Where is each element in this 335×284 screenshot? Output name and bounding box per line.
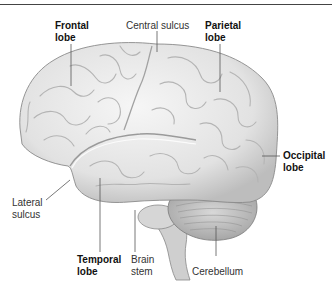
- label-central-sulcus: Central sulcus: [126, 20, 189, 32]
- label-cerebellum-text: Cerebellum: [192, 266, 243, 277]
- brain-illustration: [0, 0, 335, 284]
- label-frontal-lobe-line1: Frontal: [55, 20, 89, 32]
- label-temporal-lobe-line1: Temporal: [77, 254, 121, 266]
- label-cerebellum: Cerebellum: [192, 266, 243, 278]
- label-temporal-lobe: Temporal lobe: [77, 254, 121, 278]
- label-frontal-lobe-line2: lobe: [55, 32, 89, 44]
- label-occipital-lobe: Occipital lobe: [283, 150, 325, 174]
- label-lateral-sulcus-line2: sulcus: [12, 209, 43, 221]
- label-lateral-sulcus: Lateral sulcus: [12, 197, 43, 221]
- label-brain-stem-line2: stem: [131, 266, 154, 278]
- leader-lateral-sulcus: [46, 180, 70, 200]
- label-occipital-lobe-line2: lobe: [283, 162, 325, 174]
- label-parietal-lobe-line1: Parietal: [205, 20, 241, 32]
- label-central-sulcus-text: Central sulcus: [126, 20, 189, 31]
- label-lateral-sulcus-line1: Lateral: [12, 197, 43, 209]
- label-brain-stem: Brain stem: [131, 254, 154, 278]
- label-brain-stem-line1: Brain: [131, 254, 154, 266]
- label-frontal-lobe: Frontal lobe: [55, 20, 89, 44]
- label-parietal-lobe-line2: lobe: [205, 32, 241, 44]
- label-occipital-lobe-line1: Occipital: [283, 150, 325, 162]
- label-parietal-lobe: Parietal lobe: [205, 20, 241, 44]
- label-temporal-lobe-line2: lobe: [77, 266, 121, 278]
